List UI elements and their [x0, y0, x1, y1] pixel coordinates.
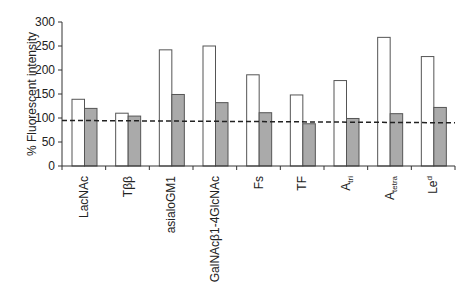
y-tick-label: 50 [42, 135, 56, 149]
x-tick-label: asialoGM1 [164, 176, 178, 234]
bar-gray [85, 108, 98, 166]
bar-chart: 050100150200250300 LacNAcTββasialoGM1Gal… [0, 0, 467, 286]
bar-white [247, 75, 260, 166]
bar-white [72, 99, 85, 166]
bar-gray [390, 114, 403, 166]
x-tick-label: Atetra [383, 175, 399, 200]
x-tick-label: Atri [339, 176, 355, 191]
bar-white [159, 50, 172, 166]
bar-gray [128, 116, 141, 166]
bar-white [378, 37, 391, 166]
x-tick-label: GalNAcβ1-4GlcNAc [208, 176, 222, 282]
bar-white [334, 81, 347, 166]
y-axis-label: % Fluorescent intensity [25, 32, 39, 156]
bar-gray [172, 94, 185, 166]
x-tick-label: TF [295, 176, 309, 191]
bar-gray [434, 107, 447, 166]
x-tick-label: Fs [252, 176, 266, 189]
x-tick-label: Led [425, 176, 440, 194]
bar-white [290, 95, 303, 166]
y-axis: 050100150200250300 [35, 15, 62, 173]
bar-gray [216, 103, 229, 166]
bar-gray [303, 124, 316, 166]
y-tick-label: 300 [35, 15, 55, 29]
bars [72, 37, 446, 166]
x-axis: LacNAcTββasialoGM1GalNAcβ1-4GlcNAcFsTFAt… [62, 166, 455, 282]
bar-gray [259, 113, 272, 166]
bar-gray [347, 118, 360, 166]
x-tick-label: LacNAc [77, 176, 91, 218]
y-tick-label: 0 [48, 159, 55, 173]
bar-white [203, 46, 216, 166]
x-tick-label: Tββ [121, 176, 135, 197]
bar-white [421, 57, 434, 166]
